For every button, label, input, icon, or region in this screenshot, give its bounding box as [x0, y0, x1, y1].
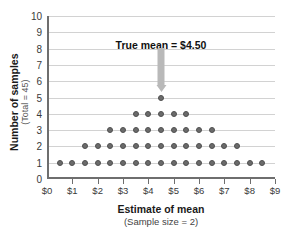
data-dot: [158, 143, 164, 149]
data-dot: [107, 143, 113, 149]
data-dot: [82, 143, 88, 149]
x-tick-label: $4: [143, 185, 154, 196]
data-dot: [183, 143, 189, 149]
x-axis-title-sub: (Sample size = 2): [47, 216, 275, 228]
x-tick-label: $0: [42, 185, 53, 196]
data-dot: [259, 160, 265, 166]
data-dot: [95, 143, 101, 149]
data-dot: [209, 143, 215, 149]
data-dot: [133, 111, 139, 117]
data-dot: [158, 127, 164, 133]
data-dot: [145, 160, 151, 166]
x-tick-label: $3: [118, 185, 129, 196]
x-tick-label: $6: [194, 185, 205, 196]
data-dot: [158, 160, 164, 166]
x-tick: [224, 179, 225, 184]
x-tick: [174, 179, 175, 184]
data-dot: [209, 127, 215, 133]
y-tick-label: 8: [36, 43, 42, 54]
figure-caption-strip: [0, 236, 287, 244]
y-tick-label: 2: [36, 141, 42, 152]
x-tick: [250, 179, 251, 184]
gridline: [47, 32, 275, 33]
data-dot: [221, 143, 227, 149]
data-dot: [209, 160, 215, 166]
data-dot: [196, 143, 202, 149]
data-dot: [171, 127, 177, 133]
y-tick-label: 0: [36, 174, 42, 185]
data-dot: [221, 160, 227, 166]
x-tick-label: $5: [168, 185, 179, 196]
data-dot: [69, 160, 75, 166]
data-dot: [120, 160, 126, 166]
data-dot: [107, 160, 113, 166]
data-dot: [183, 127, 189, 133]
y-tick-label: 7: [36, 59, 42, 70]
data-dot: [171, 111, 177, 117]
plot-area: 012345678910 $0$1$2$3$4$5$6$7$8$9 True m…: [47, 16, 275, 179]
data-dot: [133, 160, 139, 166]
data-dot: [82, 160, 88, 166]
y-axis-title: Number of samples (Total = 45): [2, 18, 36, 186]
data-dot: [145, 143, 151, 149]
x-axis-title: Estimate of mean (Sample size = 2): [47, 203, 275, 228]
x-tick: [123, 179, 124, 184]
y-tick-label: 3: [36, 125, 42, 136]
arrow-shaft: [158, 48, 165, 85]
data-dot: [133, 127, 139, 133]
y-tick-label: 6: [36, 76, 42, 87]
data-dot: [183, 111, 189, 117]
dotplot-figure: Number of samples (Total = 45) 012345678…: [0, 0, 287, 244]
x-tick: [98, 179, 99, 184]
data-dot: [247, 160, 253, 166]
data-dot: [145, 111, 151, 117]
data-dot: [57, 160, 63, 166]
y-tick-label: 9: [36, 27, 42, 38]
data-dot: [145, 127, 151, 133]
data-dot: [158, 111, 164, 117]
y-axis-title-sub: (Total = 45): [20, 53, 30, 150]
y-tick-label: 10: [31, 11, 42, 22]
x-tick-label: $7: [219, 185, 230, 196]
x-tick: [148, 179, 149, 184]
data-dot: [183, 160, 189, 166]
data-dot: [196, 127, 202, 133]
data-dot: [171, 160, 177, 166]
data-dot: [234, 160, 240, 166]
x-tick-label: $9: [270, 185, 281, 196]
y-tick-label: 4: [36, 108, 42, 119]
y-axis-title-main: Number of samples: [8, 53, 20, 150]
data-dot: [120, 127, 126, 133]
x-tick-label: $1: [67, 185, 78, 196]
data-dot: [171, 143, 177, 149]
y-tick-label: 5: [36, 92, 42, 103]
arrow-head: [156, 85, 166, 92]
data-dot: [234, 143, 240, 149]
x-tick-label: $8: [244, 185, 255, 196]
gridline: [47, 16, 275, 17]
x-tick-label: $2: [92, 185, 103, 196]
x-tick: [199, 179, 200, 184]
y-tick-label: 1: [36, 157, 42, 168]
x-axis-title-main: Estimate of mean: [47, 203, 275, 216]
data-dot: [133, 143, 139, 149]
data-dot: [120, 143, 126, 149]
data-dot: [107, 127, 113, 133]
x-tick: [275, 179, 276, 184]
y-axis-line: [47, 16, 49, 179]
x-axis-line: [47, 177, 275, 179]
data-dot: [95, 160, 101, 166]
x-tick: [72, 179, 73, 184]
data-dot: [158, 95, 164, 101]
data-dot: [196, 160, 202, 166]
true-mean-arrow-icon: [156, 48, 167, 92]
